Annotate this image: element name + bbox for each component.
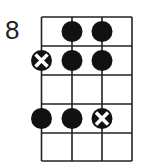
finger-dot <box>92 21 113 42</box>
fretboard-grid <box>0 0 144 168</box>
root-x-marker <box>92 108 113 129</box>
finger-dot <box>92 50 113 71</box>
finger-dot <box>62 108 83 129</box>
root-x-marker <box>31 50 52 71</box>
finger-dot <box>62 50 83 71</box>
finger-dot <box>31 108 52 129</box>
finger-dot <box>62 21 83 42</box>
